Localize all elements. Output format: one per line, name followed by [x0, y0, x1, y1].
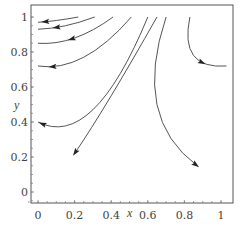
x-tick-label: 0.4	[102, 209, 120, 222]
arrowhead-icon	[38, 120, 47, 128]
phase-portrait-plot: 00.20.40.60.81 00.20.40.60.81 y x	[0, 0, 240, 232]
plot-frame	[31, 5, 233, 203]
y-tick-label: 0	[21, 186, 28, 199]
x-tick-label: 0	[35, 209, 42, 222]
trajectory-curves	[38, 17, 226, 166]
x-tick-label: 0.8	[176, 209, 194, 222]
y-tick-label: 0.6	[11, 81, 29, 94]
trajectory-8	[188, 17, 227, 66]
y-tick-label: 0.2	[11, 151, 29, 164]
trajectory-7	[155, 17, 198, 166]
y-axis-label: y	[13, 98, 20, 112]
x-tick-label: 0.6	[139, 209, 157, 222]
x-tick-label: 0.2	[66, 209, 84, 222]
arrowhead-icon	[197, 58, 206, 66]
trajectory-5	[38, 17, 148, 127]
y-tick-label: 0.8	[11, 46, 29, 59]
x-axis-label: x	[126, 206, 133, 220]
axis-ticks	[29, 17, 221, 203]
trajectory-4	[38, 17, 131, 67]
y-tick-label: 0.4	[11, 116, 29, 129]
y-tick-label: 1	[21, 11, 28, 24]
x-tick-label: 1	[218, 209, 225, 222]
arrowhead-icon	[67, 35, 76, 42]
trajectory-6	[75, 17, 157, 154]
arrowhead-icon	[71, 148, 80, 158]
